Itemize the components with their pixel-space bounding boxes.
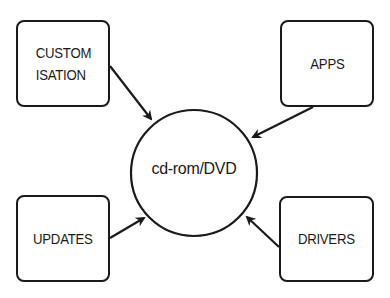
node-apps: APPS <box>280 20 374 107</box>
node-updates: UPDATES <box>16 195 110 282</box>
node-customisation: CUSTOM ISATION <box>16 20 110 107</box>
node-drivers: DRIVERS <box>279 196 374 282</box>
node-drivers-label: DRIVERS <box>298 228 355 250</box>
node-apps-label: APPS <box>310 53 344 75</box>
arrow-apps <box>253 107 313 137</box>
node-customisation-label: CUSTOM ISATION <box>35 42 90 86</box>
arrow-customisation <box>110 66 151 119</box>
arrow-updates <box>110 218 144 238</box>
node-updates-label: UPDATES <box>33 228 93 250</box>
arrow-drivers <box>247 217 279 247</box>
center-label: cd-rom/DVD <box>130 160 258 178</box>
